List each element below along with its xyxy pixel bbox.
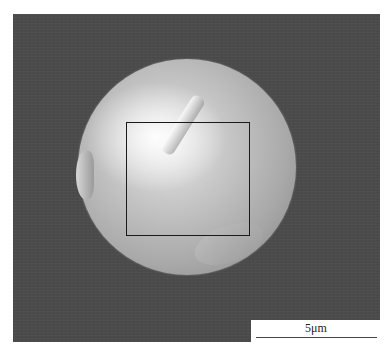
scale-bar: 5μm bbox=[251, 320, 381, 342]
scale-bar-line bbox=[256, 337, 377, 338]
sem-micrograph bbox=[13, 14, 380, 342]
region-of-interest-box bbox=[126, 122, 250, 236]
scale-bar-label: 5μm bbox=[251, 321, 381, 336]
particle-left-protrusion bbox=[76, 151, 94, 199]
